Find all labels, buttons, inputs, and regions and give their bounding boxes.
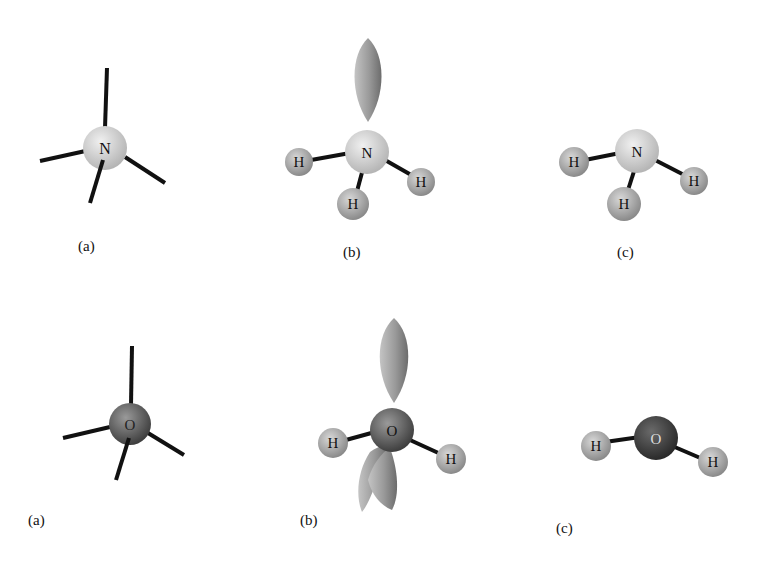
molecular-geometry-figure: N N H H H N H H H	[0, 0, 761, 562]
lone-pair-lobe	[355, 38, 382, 122]
ammonia-panel-b: N H H H	[285, 38, 435, 220]
panel-label-water-a: (a)	[28, 512, 45, 529]
svg-text:N: N	[99, 140, 111, 157]
svg-text:H: H	[348, 196, 359, 212]
svg-text:N: N	[632, 144, 643, 160]
water-panel-a: O	[63, 346, 184, 480]
panel-label-water-c: (c)	[556, 520, 573, 537]
svg-text:O: O	[125, 417, 136, 433]
svg-text:H: H	[446, 451, 457, 467]
svg-text:H: H	[569, 154, 580, 170]
svg-text:H: H	[708, 454, 719, 470]
svg-text:H: H	[416, 174, 427, 190]
panel-label-ammonia-c: (c)	[617, 244, 634, 261]
svg-text:H: H	[294, 154, 305, 170]
water-panel-c: O H H	[581, 416, 728, 477]
svg-text:N: N	[362, 145, 373, 161]
svg-text:O: O	[387, 423, 398, 439]
panel-label-ammonia-a: (a)	[78, 238, 95, 255]
svg-text:H: H	[689, 173, 700, 189]
panel-label-ammonia-b: (b)	[343, 244, 361, 261]
svg-text:H: H	[619, 196, 630, 212]
svg-text:H: H	[328, 435, 339, 451]
ammonia-panel-a: N	[40, 68, 165, 203]
svg-text:O: O	[651, 431, 662, 447]
panel-label-water-b: (b)	[300, 512, 318, 529]
water-panel-b: O H H	[318, 318, 466, 512]
ammonia-panel-c: N H H H	[559, 129, 708, 221]
svg-text:H: H	[591, 438, 602, 454]
